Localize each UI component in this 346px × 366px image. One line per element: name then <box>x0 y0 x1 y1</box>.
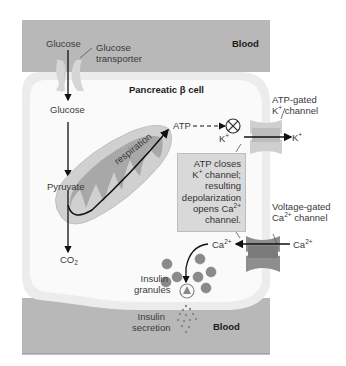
k-outside-label: K+ <box>292 132 302 143</box>
k-inside-label: K+ <box>219 133 229 144</box>
inhibition-icon <box>226 119 240 133</box>
atp-label: ATP <box>173 120 191 131</box>
insulin-granules-label: Insulin granules <box>134 273 168 295</box>
info-box: ATP closes K+ channel; resulting depolar… <box>177 153 246 232</box>
co2-label: CO2 <box>60 254 78 265</box>
ca-outside-label: Ca2+ <box>293 239 313 250</box>
ca-inside-label: Ca2+ <box>212 239 232 250</box>
blood-bottom-label: Blood <box>213 321 240 332</box>
glucose-outside-label: Glucose <box>46 38 81 49</box>
glucose-transporter-label: Glucose transporter <box>96 42 142 64</box>
glucose-inside-label: Glucose <box>50 104 85 115</box>
voltage-gated-channel-label: Voltage-gated Ca2+ channel <box>272 201 331 223</box>
pyruvate-label: Pyruvate <box>47 181 85 192</box>
atp-gated-channel-label: ATP-gated K+ channel <box>272 94 318 116</box>
voltage-gated-ca-channel <box>246 236 280 272</box>
insulin-secretion-label: Insulin secretion <box>132 311 171 333</box>
exocytosis-granule <box>180 284 194 298</box>
blood-top-label: Blood <box>232 38 259 49</box>
cell-label: Pancreatic β cell <box>129 84 204 95</box>
